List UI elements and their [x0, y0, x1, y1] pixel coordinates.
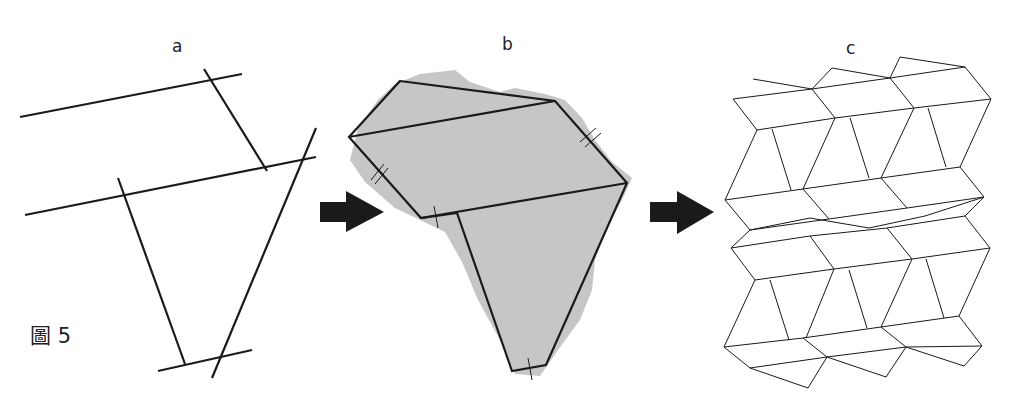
panel-a-lines [20, 69, 316, 378]
arrow-icon [650, 191, 714, 234]
panel-c-tessellation [724, 57, 991, 388]
africa-map [350, 70, 632, 376]
arrow-icon [320, 191, 384, 232]
diagram-canvas [0, 0, 1011, 403]
